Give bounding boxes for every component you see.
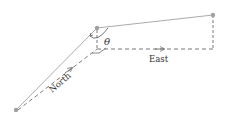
east-label: East — [149, 54, 169, 64]
displacement-line-1 — [16, 28, 97, 110]
end-point — [211, 13, 215, 17]
north-label: North — [47, 70, 73, 94]
vector-diagram: θ East North — [0, 0, 228, 120]
theta-label: θ — [104, 36, 110, 47]
middle-point — [95, 26, 99, 30]
start-point — [14, 108, 18, 112]
displacement-line-2 — [97, 15, 213, 28]
